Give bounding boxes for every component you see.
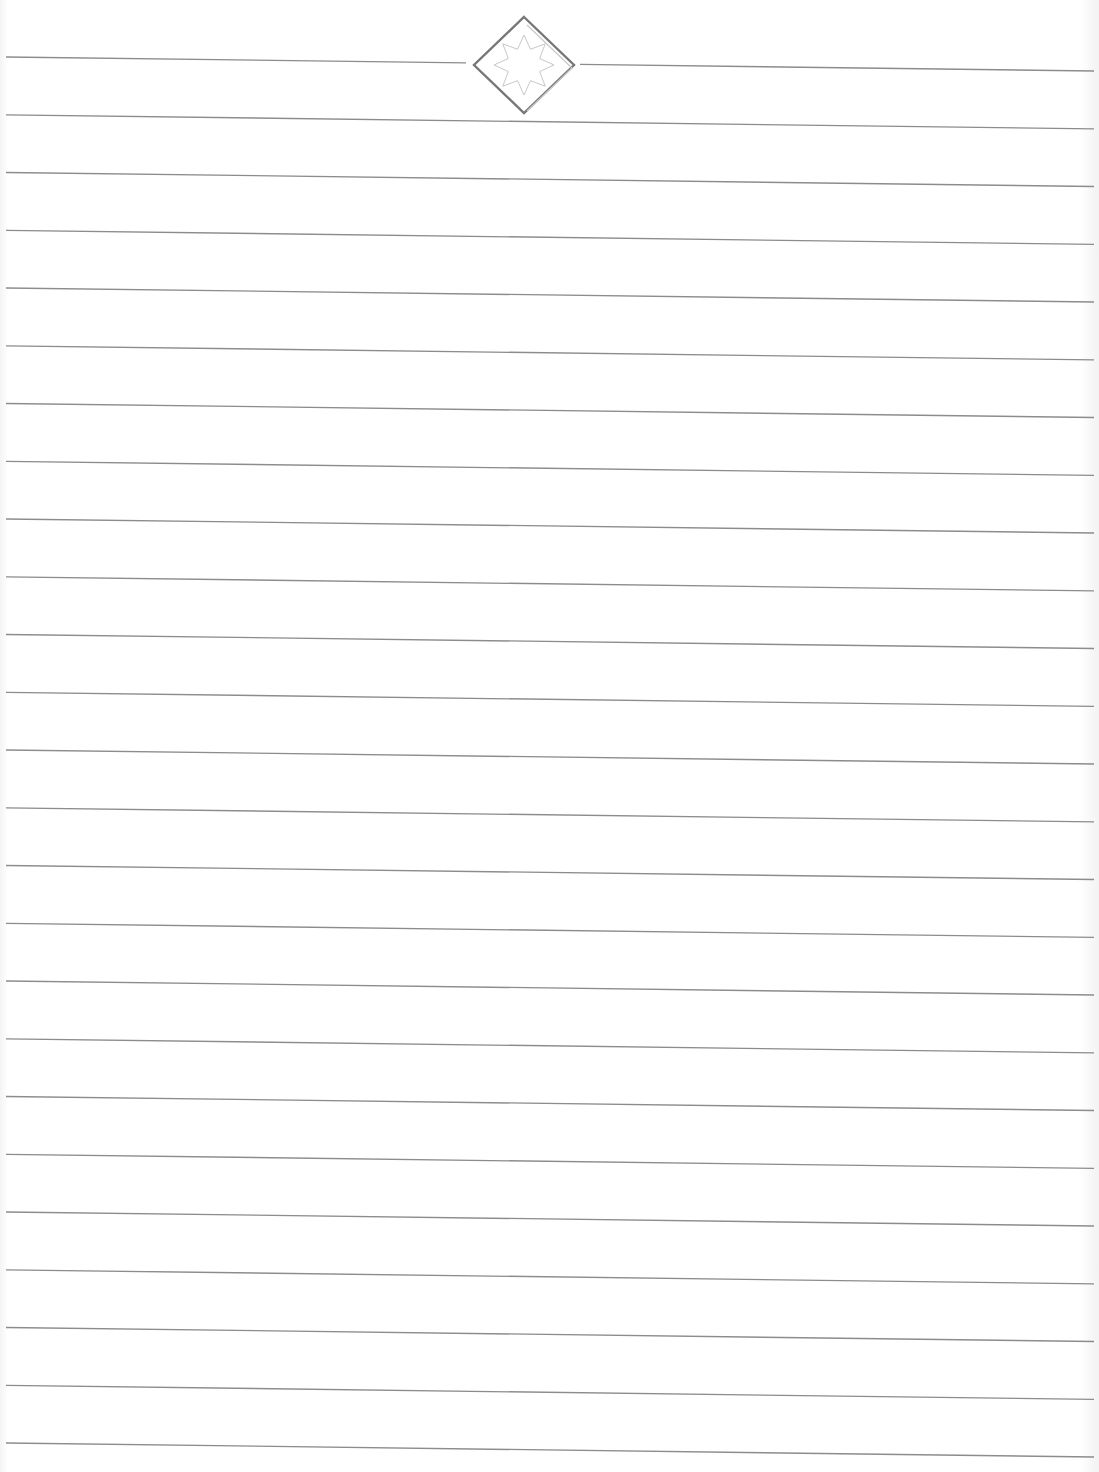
rule-line [6,923,1094,937]
rule-line [6,1212,1094,1226]
rule-line [6,519,1094,533]
rule-line [6,1328,1094,1342]
diamond-star-ornament-icon [474,17,574,113]
rule-line [6,1385,1094,1399]
rule-line [6,866,1094,880]
rule-line [6,1039,1094,1053]
rule-line [6,635,1094,649]
rule-line [6,1154,1094,1168]
rule-line [6,404,1094,418]
rule-line [6,577,1094,591]
rule-line [6,808,1094,822]
rule-line [6,230,1094,244]
rule-line [6,57,466,63]
ruled-lines [0,0,1099,1472]
lined-paper-page [0,0,1099,1472]
rule-line [6,1097,1094,1111]
rule-lines-group [6,57,1094,1457]
rule-line [6,288,1094,302]
rule-line [6,173,1094,187]
rule-line [6,1270,1094,1284]
rule-line [6,692,1094,706]
rule-line [6,750,1094,764]
rule-line [6,981,1094,995]
rule-line [6,346,1094,360]
rule-line [6,115,1094,129]
diamond-outer-border [474,17,574,113]
rule-line [6,461,1094,475]
rule-line [580,64,1094,71]
rule-line [6,1443,1094,1457]
